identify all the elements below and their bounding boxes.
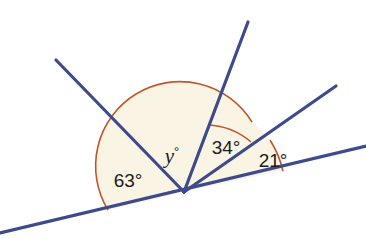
angle-label-y-value: y bbox=[163, 144, 175, 168]
angle-label-34: 34° bbox=[212, 137, 241, 158]
geometry-figure: 63° y° 34° 21° bbox=[0, 0, 366, 239]
angle-label-y-degree: ° bbox=[174, 144, 179, 159]
angle-label-21: 21° bbox=[259, 150, 288, 171]
angles-diagram: 63° y° 34° 21° bbox=[0, 0, 366, 239]
angle-label-63: 63° bbox=[114, 170, 143, 191]
